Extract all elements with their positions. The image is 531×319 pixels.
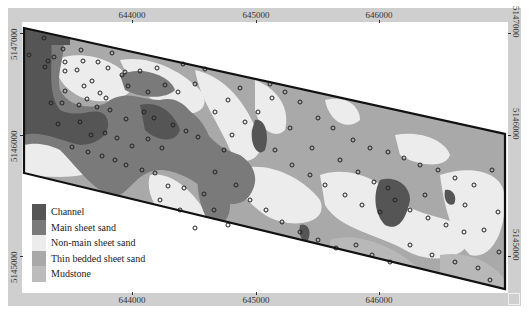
well-marker-icon [193,226,197,230]
legend-label: Non-main sheet sand [51,237,135,248]
legend: Channel Main sheet sand Non-main sheet s… [32,204,145,282]
legend-swatch-channel [32,204,46,220]
legend-label: Main sheet sand [51,222,116,233]
legend-swatch-main-sheet-sand [32,220,46,236]
legend-item-channel: Channel [32,204,145,220]
legend-label: Channel [51,206,84,217]
legend-swatch-non-main-sheet-sand [32,235,46,251]
legend-item-non-main-sheet-sand: Non-main sheet sand [32,235,145,251]
legend-label: Thin bedded sheet sand [51,253,145,264]
legend-swatch-mudstone [32,266,46,282]
legend-item-mudstone: Mudstone [32,266,145,282]
legend-item-main-sheet-sand: Main sheet sand [32,220,145,236]
legend-item-thin-bedded-sheet-sand: Thin bedded sheet sand [32,251,145,267]
legend-swatch-thin-bedded-sheet-sand [32,251,46,267]
legend-label: Mudstone [51,268,91,279]
